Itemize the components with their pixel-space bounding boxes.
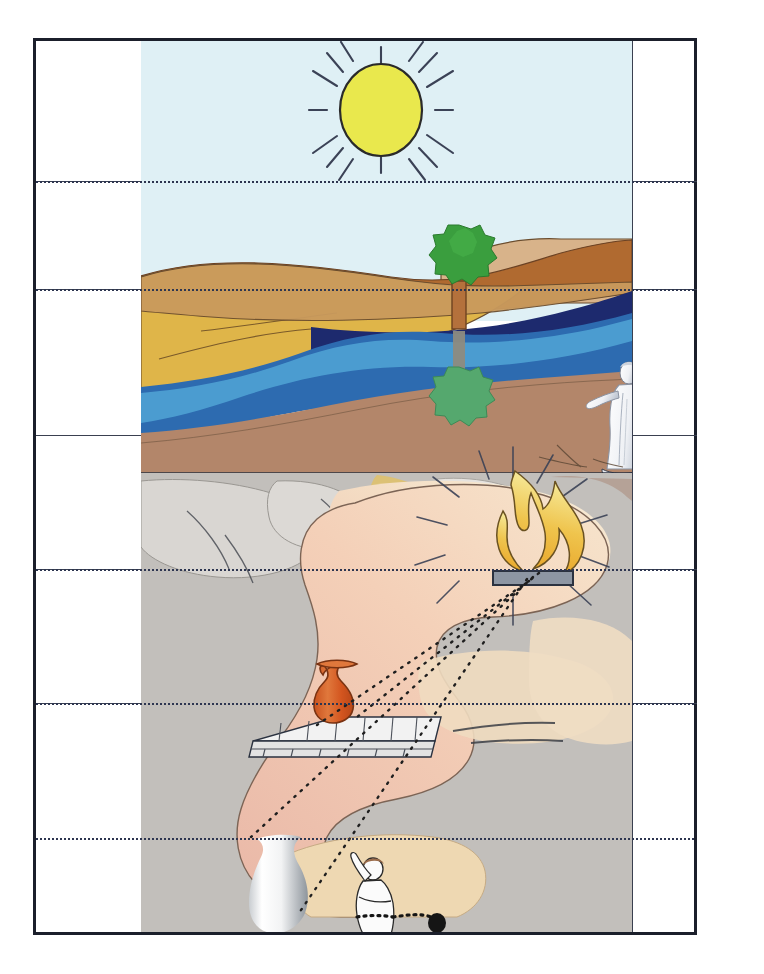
level-line-2: [36, 289, 694, 291]
right-cell-6: [632, 703, 697, 932]
left-cell-2: [36, 181, 141, 289]
level-line-3: [36, 569, 694, 571]
right-cell-1: [632, 41, 697, 181]
level-line-1: [36, 181, 694, 183]
left-cell-3: [36, 289, 141, 435]
left-cell-6: [36, 703, 141, 932]
left-cell-4: [36, 435, 141, 569]
left-cell-5: [36, 569, 141, 703]
left-cell-1: [36, 41, 141, 181]
level-line-5: [36, 838, 694, 840]
cave-region: [141, 447, 632, 932]
figure-frame: [33, 38, 697, 935]
right-cell-2: [632, 181, 697, 289]
right-cell-5: [632, 569, 697, 703]
level-line-4: [36, 703, 694, 705]
sun-disc: [340, 64, 422, 156]
right-cell-4: [632, 435, 697, 569]
figure-root: [0, 0, 764, 974]
illustration-panel: [141, 41, 632, 932]
right-cell-3: [632, 289, 697, 435]
